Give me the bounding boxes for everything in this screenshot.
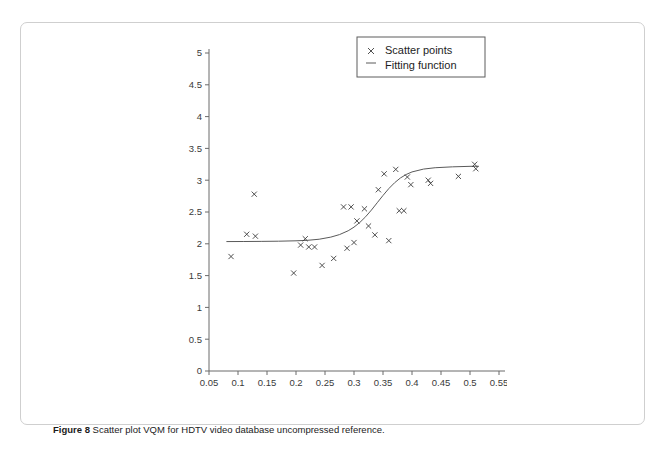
scatter-point-marker (362, 206, 367, 211)
scatter-point-marker (393, 167, 398, 172)
scatter-point-marker (372, 232, 377, 237)
x-tick-label: 0.5 (463, 377, 476, 388)
scatter-point-marker (312, 244, 317, 249)
x-tick-label: 0.2 (289, 377, 302, 388)
y-tick-label: 0 (197, 365, 202, 376)
fitting-function-curve (226, 166, 478, 241)
scatter-point-marker (354, 218, 359, 223)
scatter-point-marker (382, 171, 387, 176)
scatter-point-marker (401, 208, 406, 213)
scatter-point-marker (344, 246, 349, 251)
scatter-point-marker (331, 256, 336, 261)
scatter-point-marker (244, 232, 249, 237)
scatter-points-group (228, 162, 478, 276)
legend-label-scatter: Scatter points (385, 44, 453, 56)
x-tick-label: 0.35 (374, 377, 393, 388)
chart-plot-area: 00.511.522.533.544.550.050.10.150.20.250… (187, 31, 507, 391)
scatter-point-marker (366, 223, 371, 228)
figure-caption: Figure 8 Scatter plot VQM for HDTV video… (53, 423, 643, 436)
y-tick-label: 2 (197, 238, 202, 249)
x-tick-label: 0.1 (231, 377, 244, 388)
scatter-point-marker (320, 263, 325, 268)
x-tick-label: 0.3 (347, 377, 360, 388)
scatter-point-marker (253, 234, 258, 239)
scatter-point-marker (341, 204, 346, 209)
scatter-point-marker (298, 242, 303, 247)
scatter-point-marker (228, 254, 233, 259)
scatter-point-marker (252, 192, 257, 197)
scatter-point-marker (426, 178, 431, 183)
y-tick-label: 4 (197, 111, 202, 122)
x-tick-label: 0.25 (316, 377, 335, 388)
y-tick-label: 3 (197, 175, 202, 186)
x-tick-label: 0.55 (490, 377, 507, 388)
scatter-point-marker (351, 240, 356, 245)
scatter-point-marker (428, 181, 433, 186)
scatter-point-marker (397, 208, 402, 213)
x-tick-label: 0.15 (258, 377, 277, 388)
caption-text: Scatter plot VQM for HDTV video database… (93, 424, 385, 435)
y-tick-label: 2.5 (189, 206, 202, 217)
legend-label-fit: Fitting function (385, 59, 457, 71)
scatter-point-marker (291, 270, 296, 275)
x-tick-label: 0.45 (432, 377, 451, 388)
y-tick-label: 1 (197, 302, 202, 313)
legend-box (357, 37, 485, 77)
scatter-point-marker (349, 204, 354, 209)
scatter-point-marker (405, 174, 410, 179)
scatter-point-marker (473, 166, 478, 171)
scatter-point-marker (408, 182, 413, 187)
figure-frame: 00.511.522.533.544.550.050.10.150.20.250… (20, 22, 645, 425)
y-tick-label: 3.5 (189, 143, 202, 154)
x-tick-label: 0.05 (200, 377, 219, 388)
scatter-point-marker (376, 187, 381, 192)
caption-label: Figure 8 (53, 424, 90, 435)
y-tick-label: 5 (197, 47, 202, 58)
y-tick-label: 1.5 (189, 270, 202, 281)
scatter-chart: 00.511.522.533.544.550.050.10.150.20.250… (187, 31, 507, 391)
scatter-point-marker (306, 244, 311, 249)
chart-legend: Scatter pointsFitting function (357, 37, 485, 77)
y-tick-label: 4.5 (189, 79, 202, 90)
x-tick-label: 0.4 (405, 377, 418, 388)
scatter-point-marker (456, 174, 461, 179)
y-tick-label: 0.5 (189, 334, 202, 345)
scatter-point-marker (386, 238, 391, 243)
